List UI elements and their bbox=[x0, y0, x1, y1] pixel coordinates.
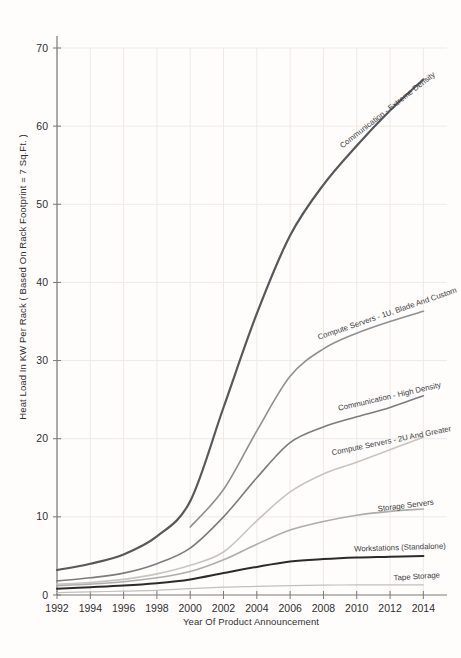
y-tick-label: 20 bbox=[36, 432, 48, 444]
y-tick-label: 30 bbox=[36, 354, 48, 366]
x-tick-label: 2012 bbox=[378, 602, 402, 614]
x-tick-label: 1994 bbox=[79, 602, 103, 614]
x-tick-label: 2014 bbox=[412, 602, 436, 614]
series-label-compute-servers-1u-blade-and-custom: Compute Servers - 1U, Blade And Custom bbox=[316, 286, 457, 342]
y-tick-label: 50 bbox=[36, 198, 48, 210]
series-label-workstations-standalone: Workstations (Standalone) bbox=[354, 541, 446, 553]
y-tick-label: 60 bbox=[36, 120, 48, 132]
series-label-tape-storage: Tape Storage bbox=[393, 570, 440, 582]
y-tick-label: 0 bbox=[42, 589, 48, 601]
x-tick-label: 1996 bbox=[112, 602, 136, 614]
series-line-workstations-standalone bbox=[57, 556, 423, 589]
y-tick-label: 70 bbox=[36, 42, 48, 54]
y-axis-title: Heat Load In KW Per Rack ( Based On Rack… bbox=[17, 134, 28, 419]
x-tick-label: 1992 bbox=[45, 602, 69, 614]
heat-load-trend-chart: 0102030405060701992199419961998200020022… bbox=[0, 0, 461, 658]
y-tick-label: 40 bbox=[36, 276, 48, 288]
x-tick-label: 2004 bbox=[245, 602, 269, 614]
x-tick-label: 2010 bbox=[345, 602, 369, 614]
y-tick-label: 10 bbox=[36, 510, 48, 522]
series-label-storage-servers: Storage Servers bbox=[377, 498, 434, 514]
series-line-compute-servers-1u-blade-and-custom bbox=[190, 311, 423, 527]
x-tick-label: 2008 bbox=[312, 602, 336, 614]
series-line-communication-high-density bbox=[57, 396, 423, 581]
x-axis-title: Year Of Product Announcement bbox=[183, 616, 319, 627]
series-label-communication-extreme-density: Communication - Extreme Density bbox=[338, 70, 437, 150]
scanned-figure-page: 0102030405060701992199419961998200020022… bbox=[0, 0, 461, 658]
x-tick-label: 2000 bbox=[179, 602, 203, 614]
x-tick-label: 1998 bbox=[145, 602, 169, 614]
x-tick-label: 2002 bbox=[212, 602, 236, 614]
x-tick-label: 2006 bbox=[278, 602, 302, 614]
series-label-compute-servers-2u-and-greater: Compute Servers - 2U And Greater bbox=[331, 424, 453, 457]
series-line-compute-servers-2u-and-greater bbox=[57, 437, 423, 584]
